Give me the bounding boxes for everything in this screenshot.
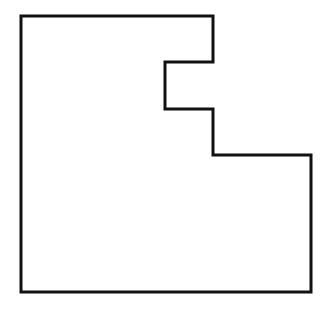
- diagram-canvas: [0, 0, 333, 313]
